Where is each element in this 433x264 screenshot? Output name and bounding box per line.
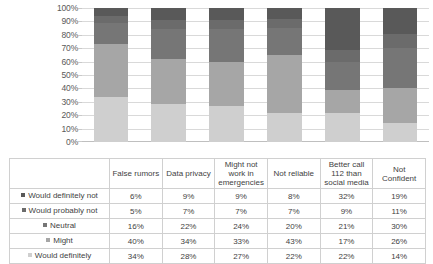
y-axis-tick-label: 20% — [62, 111, 78, 120]
y-axis-tick-label: 70% — [62, 44, 78, 53]
bar-segment — [325, 90, 360, 113]
table-column-header: Better call 112 than social media — [320, 159, 373, 189]
bar-segment — [383, 34, 418, 49]
stacked-bar — [267, 8, 302, 142]
table-cell-value: 7% — [267, 204, 320, 219]
bar-segment — [383, 123, 418, 142]
bar-slot — [313, 8, 371, 142]
bar-segment — [94, 97, 129, 142]
bar-segment — [209, 20, 244, 29]
legend-swatch-icon — [43, 223, 47, 227]
table-cell-value: 9% — [320, 204, 373, 219]
bar-slot — [255, 8, 313, 142]
legend-swatch-icon — [28, 253, 32, 257]
bar-segment — [209, 106, 244, 142]
stacked-bar — [325, 8, 360, 142]
bar-segment — [267, 28, 302, 55]
bar-segment — [209, 29, 244, 61]
bar-segment — [267, 55, 302, 113]
legend-swatch-icon — [46, 238, 50, 242]
chart-bars — [82, 8, 429, 142]
table-cell-value: 28% — [162, 249, 215, 264]
bar-slot — [140, 8, 198, 142]
bar-slot — [371, 8, 429, 142]
legend-entry: Would definitely — [10, 249, 110, 264]
legend-swatch-icon — [22, 208, 26, 212]
y-axis-tick-label: 90% — [62, 17, 78, 26]
table-cell-value: 6% — [110, 189, 163, 204]
table-cell-value: 8% — [267, 189, 320, 204]
table-cell-value: 5% — [110, 204, 163, 219]
bar-segment — [325, 113, 360, 142]
stacked-bar — [94, 8, 129, 142]
bar-segment — [383, 48, 418, 88]
table-cell-value: 32% — [320, 189, 373, 204]
y-axis-tick-label: 0% — [66, 138, 78, 147]
bar-segment — [151, 20, 186, 29]
table-cell-value: 17% — [320, 234, 373, 249]
table-cell-value: 9% — [162, 189, 215, 204]
legend-entry: Might — [10, 234, 110, 249]
table-header-row: False rumorsData privacyMight not work i… — [10, 159, 426, 189]
table-column-header: Not reliable — [267, 159, 320, 189]
table-cell-value: 19% — [373, 189, 426, 204]
legend-label: Would definitely — [35, 252, 91, 261]
table-body: Would definitely not6%9%9%8%32%19%Would … — [10, 189, 426, 264]
table-cell-value: 11% — [373, 204, 426, 219]
table-cell-value: 40% — [110, 234, 163, 249]
bar-slot — [82, 8, 140, 142]
table-column-header: Might not work in emergencies — [215, 159, 268, 189]
legend-swatch-icon — [21, 193, 25, 197]
bar-segment — [383, 88, 418, 123]
table-cell-value: 26% — [373, 234, 426, 249]
bar-segment — [151, 104, 186, 142]
table-cell-value: 24% — [215, 219, 268, 234]
bar-segment — [94, 44, 129, 97]
bar-segment — [325, 50, 360, 62]
bar-segment — [383, 8, 418, 33]
table-cell-value: 33% — [215, 234, 268, 249]
y-axis-tick-label: 100% — [57, 4, 78, 13]
bar-segment — [94, 23, 129, 44]
table-row: Would definitely34%28%27%22%22%14% — [10, 249, 426, 264]
y-axis-tick-label: 80% — [62, 31, 78, 40]
table-cell-value: 27% — [215, 249, 268, 264]
data-table-legend: False rumorsData privacyMight not work i… — [9, 158, 426, 264]
table-cell-value: 30% — [373, 219, 426, 234]
bar-segment — [325, 8, 360, 50]
y-axis-tick-label: 50% — [62, 71, 78, 80]
data-table: False rumorsData privacyMight not work i… — [9, 158, 426, 264]
table-cell-value: 43% — [267, 234, 320, 249]
table-cell-value: 22% — [162, 219, 215, 234]
y-axis-tick-label: 30% — [62, 98, 78, 107]
table-column-header: False rumors — [110, 159, 163, 189]
y-axis-tick-label: 40% — [62, 84, 78, 93]
table-cell-value: 14% — [373, 249, 426, 264]
table-column-header: Not Confident — [373, 159, 426, 189]
bar-segment — [209, 8, 244, 20]
bar-segment — [151, 8, 186, 20]
legend-entry: Would probably not — [10, 204, 110, 219]
table-row: Would definitely not6%9%9%8%32%19% — [10, 189, 426, 204]
table-cell-value: 7% — [215, 204, 268, 219]
bar-segment — [325, 62, 360, 90]
table-cell-value: 21% — [320, 219, 373, 234]
stacked-bar — [151, 8, 186, 142]
bar-slot — [198, 8, 256, 142]
legend-entry: Would definitely not — [10, 189, 110, 204]
table-row: Neutral16%22%24%20%21%30% — [10, 219, 426, 234]
table-cell-value: 9% — [215, 189, 268, 204]
table-cell-value: 22% — [267, 249, 320, 264]
y-axis-tick-labels: 100%90%80%70%60%50%40%30%20%10%0% — [38, 8, 80, 142]
table-cell-value: 7% — [162, 204, 215, 219]
stacked-bar — [383, 8, 418, 142]
legend-label: Would definitely not — [28, 192, 98, 201]
bar-segment — [209, 62, 244, 106]
legend-label: Would probably not — [29, 207, 98, 216]
bar-segment — [267, 19, 302, 28]
table-row: Might40%34%33%43%17%26% — [10, 234, 426, 249]
stacked-bar-chart: 100%90%80%70%60%50%40%30%20%10%0% — [0, 8, 433, 156]
stacked-bar — [209, 8, 244, 142]
bar-segment — [94, 8, 129, 16]
legend-label: Might — [53, 237, 73, 246]
